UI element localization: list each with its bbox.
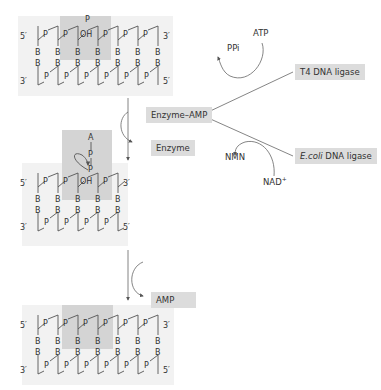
svg-text:P: P	[104, 72, 109, 81]
svg-text:B: B	[35, 348, 41, 357]
svg-text:B: B	[155, 59, 161, 68]
svg-text:B: B	[135, 348, 141, 357]
svg-text:B: B	[95, 59, 101, 68]
svg-text:P: P	[143, 30, 148, 39]
svg-text:P: P	[63, 319, 68, 328]
svg-text:P: P	[84, 218, 89, 227]
svg-text:P: P	[85, 15, 90, 24]
svg-text:P: P	[83, 319, 88, 328]
svg-text:P: P	[123, 319, 128, 328]
nad-superscript: +	[282, 175, 287, 182]
svg-text:P: P	[64, 218, 69, 227]
atp-label: ATP	[253, 28, 268, 38]
svg-text:3′: 3′	[123, 179, 130, 188]
svg-text:B: B	[95, 348, 101, 357]
enzyme-box: Enzyme	[151, 140, 195, 156]
svg-text:B: B	[55, 337, 61, 346]
svg-text:B: B	[55, 348, 61, 357]
dna-diagram: 5′3′ 3′5′ PP POH PPP PPP PPP BBB BBBB BB…	[0, 0, 381, 390]
svg-text:P: P	[64, 361, 69, 370]
svg-text:B: B	[75, 337, 81, 346]
svg-text:P: P	[123, 30, 128, 39]
nmn-label: NMN	[225, 152, 245, 162]
svg-text:P: P	[103, 177, 108, 186]
svg-text:P: P	[103, 319, 108, 328]
svg-text:P: P	[43, 30, 48, 39]
ppi-label: PPi	[227, 43, 239, 53]
nad-text: NAD	[263, 177, 282, 187]
svg-text:B: B	[55, 206, 61, 215]
svg-text:3′: 3′	[163, 32, 170, 41]
svg-text:5′: 5′	[20, 321, 27, 330]
svg-text:P: P	[44, 361, 49, 370]
svg-text:B: B	[75, 59, 81, 68]
svg-text:P: P	[103, 30, 108, 39]
svg-text:3′: 3′	[20, 77, 27, 86]
svg-text:3′: 3′	[20, 366, 27, 375]
svg-text:P: P	[124, 72, 129, 81]
svg-text:B: B	[115, 195, 121, 204]
svg-text:B: B	[95, 206, 101, 215]
svg-text:P: P	[63, 177, 68, 186]
svg-text:B: B	[115, 59, 121, 68]
svg-text:B: B	[75, 206, 81, 215]
svg-text:5′: 5′	[163, 366, 170, 375]
svg-text:B: B	[35, 48, 41, 57]
ecoli-ligase-box: E.coli DNA ligase	[295, 148, 377, 164]
svg-text:B: B	[35, 206, 41, 215]
svg-text:P: P	[44, 218, 49, 227]
svg-text:B: B	[135, 337, 141, 346]
svg-text:5′: 5′	[123, 223, 130, 232]
svg-text:B: B	[115, 48, 121, 57]
svg-text:P: P	[84, 361, 89, 370]
svg-text:P: P	[43, 319, 48, 328]
svg-text:P: P	[104, 361, 109, 370]
svg-text:P: P	[44, 72, 49, 81]
t4-ligase-box: T4 DNA ligase	[295, 64, 365, 80]
svg-text:B: B	[35, 59, 41, 68]
svg-text:P: P	[84, 72, 89, 81]
svg-text:B: B	[155, 348, 161, 357]
svg-text:P: P	[143, 319, 148, 328]
svg-text:3′: 3′	[163, 321, 170, 330]
svg-text:B: B	[155, 48, 161, 57]
ecoli-label: E.coli	[300, 151, 323, 161]
amp-box: AMP	[151, 292, 196, 308]
svg-text:B: B	[75, 348, 81, 357]
svg-text:B: B	[75, 195, 81, 204]
nad-label: NAD+	[263, 175, 287, 187]
svg-text:B: B	[55, 48, 61, 57]
svg-text:5′: 5′	[163, 77, 170, 86]
svg-text:B: B	[55, 59, 61, 68]
svg-text:B: B	[55, 195, 61, 204]
svg-text:B: B	[75, 48, 81, 57]
svg-text:B: B	[35, 337, 41, 346]
svg-text:B: B	[95, 337, 101, 346]
enzyme-amp-box: Enzyme–AMP	[146, 107, 212, 123]
svg-text:B: B	[115, 348, 121, 357]
svg-text:OH: OH	[80, 177, 92, 186]
svg-text:A: A	[88, 133, 94, 142]
svg-text:B: B	[115, 206, 121, 215]
svg-text:B: B	[35, 195, 41, 204]
svg-text:P: P	[124, 361, 129, 370]
svg-text:P: P	[63, 30, 68, 39]
svg-text:5′: 5′	[20, 32, 27, 41]
svg-text:P: P	[104, 218, 109, 227]
svg-text:B: B	[135, 48, 141, 57]
svg-text:P: P	[88, 150, 93, 159]
svg-text:P: P	[144, 72, 149, 81]
svg-text:B: B	[95, 195, 101, 204]
svg-text:B: B	[135, 59, 141, 68]
svg-text:B: B	[115, 337, 121, 346]
svg-text:P: P	[43, 177, 48, 186]
svg-text:OH: OH	[80, 30, 92, 39]
svg-text:B: B	[155, 337, 161, 346]
ecoli-ligase-label: DNA ligase	[323, 151, 372, 161]
svg-text:B: B	[95, 48, 101, 57]
svg-text:5′: 5′	[20, 179, 27, 188]
svg-text:P: P	[144, 361, 149, 370]
svg-text:P: P	[64, 72, 69, 81]
svg-text:P: P	[88, 165, 93, 174]
svg-text:3′: 3′	[20, 223, 27, 232]
